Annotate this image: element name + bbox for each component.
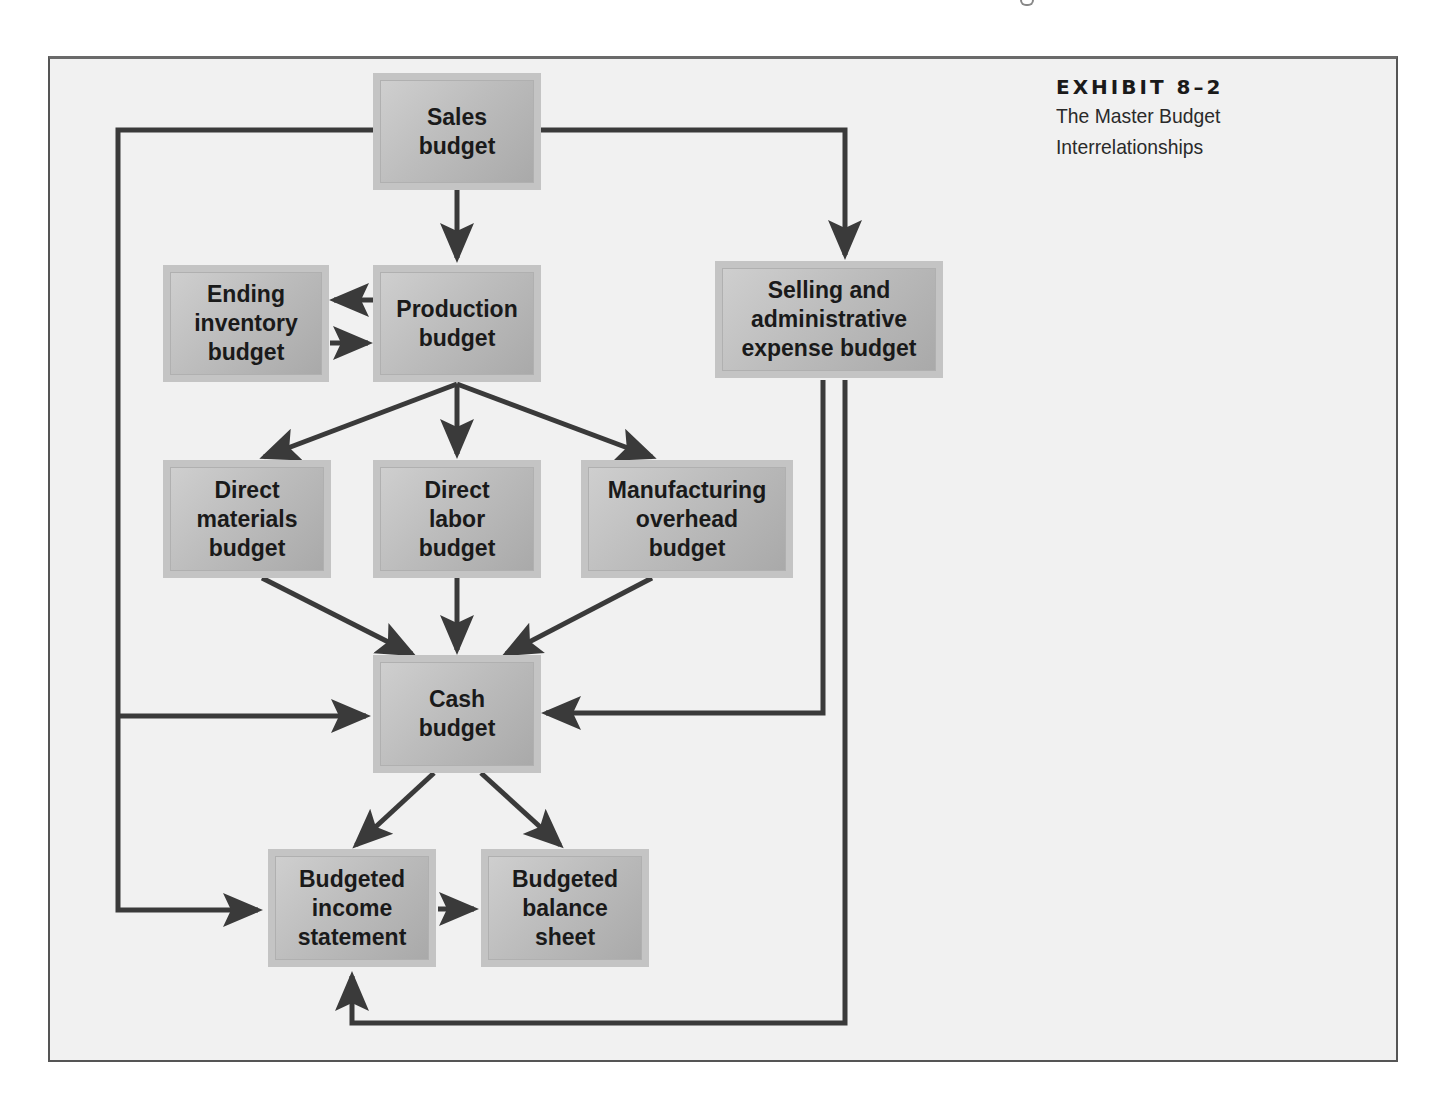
node-production-budget: Production budget — [373, 265, 541, 382]
arrow-overhead-to-cash — [506, 578, 652, 654]
node-label: Sales budget — [419, 103, 496, 161]
node-direct-labor-budget: Direct labor budget — [373, 460, 541, 578]
node-label: Cash budget — [419, 685, 496, 743]
node-label: Budgeted balance sheet — [512, 865, 618, 952]
node-cash-budget: Cash budget — [373, 655, 541, 773]
arrow-sales-to-selling — [541, 130, 845, 255]
exhibit-title: The Master Budget Interrelationships — [1056, 100, 1220, 162]
exhibit-number: EXHIBIT 8–2 — [1056, 74, 1235, 100]
node-selling-admin-budget: Selling and administrative expense budge… — [715, 261, 943, 378]
node-label: Budgeted income statement — [298, 865, 407, 952]
node-sales-budget: Sales budget — [373, 73, 541, 190]
node-label: Direct labor budget — [419, 476, 496, 563]
node-label: Production budget — [396, 295, 517, 353]
arrow-cash-to-balance — [481, 773, 560, 845]
arrow-production-to-overhead — [457, 384, 652, 457]
node-budgeted-balance-sheet: Budgeted balance sheet — [481, 849, 649, 967]
node-label: Selling and administrative expense budge… — [741, 276, 916, 363]
node-manufacturing-overhead-budget: Manufacturing overhead budget — [581, 460, 793, 578]
node-label: Direct materials budget — [196, 476, 297, 563]
exhibit-caption: EXHIBIT 8–2 The Master Budget Interrelat… — [1056, 74, 1235, 162]
arrow-materials-to-cash — [262, 578, 412, 654]
node-direct-materials-budget: Direct materials budget — [163, 460, 331, 578]
node-label: Manufacturing overhead budget — [608, 476, 766, 563]
node-budgeted-income-statement: Budgeted income statement — [268, 849, 436, 967]
node-label: Ending inventory budget — [194, 280, 298, 367]
node-ending-inventory-budget: Ending inventory budget — [163, 265, 329, 382]
arrow-production-to-materials — [264, 384, 457, 457]
arrow-cash-to-income — [356, 773, 434, 845]
